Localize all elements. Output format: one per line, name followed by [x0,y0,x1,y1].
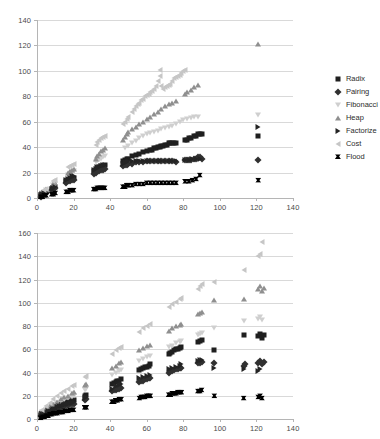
data-point-flood [47,412,53,417]
data-point-heap [144,343,150,348]
data-point-factorize [173,364,178,370]
data-point-radix [45,407,50,412]
data-point-cost [157,73,162,79]
data-point-fibonacci [197,332,203,337]
data-point-pairing [143,158,150,165]
data-point-radix [256,334,261,339]
data-point-pairing [46,407,53,414]
data-point-heap [43,406,49,411]
data-point-factorize [60,402,65,408]
data-point-radix [184,137,189,142]
data-point-radix [119,377,124,382]
y-axis-tick-label: 120 [3,275,31,284]
legend-item-pairing[interactable]: Pairing [333,85,378,98]
data-point-cost [44,403,49,409]
data-point-radix [124,156,129,161]
data-point-flood [45,413,51,418]
data-point-factorize [40,411,45,417]
data-point-cost [172,75,177,81]
data-point-cost [137,329,142,335]
data-point-pairing [198,155,205,162]
data-point-fibonacci [257,314,263,319]
data-point-radix [192,133,197,138]
data-point-radix [51,185,56,190]
data-point-factorize [241,366,246,372]
legend-top: RadixPairingFibonacciHeapFactorizeCostFl… [333,72,378,163]
data-point-pairing [255,156,262,163]
data-point-fibonacci [169,123,175,128]
data-point-pairing [65,402,72,409]
x-tick-mark [74,419,75,422]
y-axis-tick-label: 40 [3,143,31,152]
data-point-pairing [194,154,201,161]
data-point-heap [113,363,119,368]
data-point-pairing [65,178,72,185]
data-point-radix [95,166,100,171]
data-point-radix [146,363,151,368]
data-point-pairing [48,187,55,194]
legend-item-flood[interactable]: Flood [333,150,378,163]
data-point-flood [193,176,199,181]
data-point-radix [256,133,261,138]
x-tick-mark [74,198,75,201]
data-point-factorize [49,186,54,192]
data-point-heap [96,151,102,156]
data-point-flood [49,412,55,417]
data-point-radix [186,136,191,141]
data-point-pairing [165,158,172,165]
data-point-pairing [43,410,50,417]
data-point-radix [120,159,125,164]
data-point-pairing [257,357,264,364]
data-point-pairing [121,161,128,168]
data-point-fibonacci [39,190,45,195]
legend-item-factorize[interactable]: Factorize [333,124,378,137]
data-point-radix [115,378,120,383]
data-point-fibonacci [255,317,261,322]
data-point-fibonacci [39,410,45,415]
data-point-heap [83,382,89,387]
data-point-pairing [147,375,154,382]
plot-wrapper-bottom: 020406080100120140160020406080100120140 [0,219,300,439]
y-axis-line [37,20,38,198]
legend-label: Factorize [346,126,377,135]
y-axis-line [37,233,38,419]
data-point-flood [199,387,205,392]
legend-item-heap[interactable]: Heap [333,111,378,124]
data-point-factorize [199,357,204,363]
data-point-pairing [116,385,123,392]
legend-item-radix[interactable]: Radix [333,72,378,85]
data-point-flood [91,187,97,192]
data-point-radix [166,141,171,146]
data-point-radix [100,164,105,169]
data-point-radix [172,141,177,146]
data-point-factorize [97,164,102,170]
data-point-fibonacci [259,318,265,323]
data-point-flood [182,179,188,184]
data-point-radix [55,403,60,408]
data-point-pairing [123,161,130,168]
data-point-fibonacci [191,114,197,119]
data-point-heap [188,87,194,92]
data-point-radix [258,332,263,337]
data-point-heap [129,127,135,132]
legend-item-fibonacci[interactable]: Fibonacci [333,98,378,111]
data-point-fibonacci [41,189,47,194]
data-point-flood [111,399,117,404]
data-point-flood [120,184,126,189]
data-point-flood [52,190,58,195]
data-point-pairing [108,388,115,395]
data-point-factorize [44,189,49,195]
data-point-fibonacci [82,387,88,392]
legend-item-cost[interactable]: Cost [333,137,378,150]
x-axis-tick-label: 60 [142,203,151,212]
data-point-factorize [117,382,122,388]
data-point-radix [113,379,118,384]
data-point-pairing [158,158,165,165]
data-point-factorize [256,124,261,130]
data-point-pairing [55,404,62,411]
plot-area-top [37,20,293,198]
data-point-flood [255,178,261,183]
data-point-radix [139,367,144,372]
data-point-factorize [51,406,56,412]
data-point-flood [178,390,184,395]
